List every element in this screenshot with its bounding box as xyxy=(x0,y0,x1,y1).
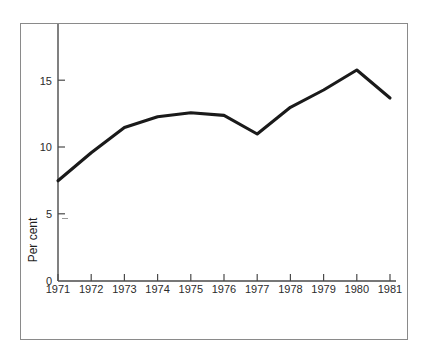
line-chart: 15 10 5 0 1971 1972 1973 1974 1975 1976 … xyxy=(0,0,427,361)
data-series-line xyxy=(58,70,390,181)
y-axis-title: Per cent xyxy=(26,217,40,262)
y-tick-label-10: 10 xyxy=(40,141,52,153)
x-tick-label-1971: 1971 xyxy=(46,283,70,295)
x-tick-label-1976: 1976 xyxy=(212,283,236,295)
x-tick-label-1980: 1980 xyxy=(345,283,369,295)
chart-figure: 15 10 5 0 1971 1972 1973 1974 1975 1976 … xyxy=(0,0,427,361)
x-tick-label-1972: 1972 xyxy=(79,283,103,295)
x-tick-label-1973: 1973 xyxy=(112,283,136,295)
y-tick-label-5: 5 xyxy=(46,208,52,220)
x-tick-label-1981: 1981 xyxy=(378,283,402,295)
x-tick-label-1974: 1974 xyxy=(145,283,169,295)
x-tick-label-1979: 1979 xyxy=(311,283,335,295)
x-tick-label-1975: 1975 xyxy=(179,283,203,295)
x-tick-label-1977: 1977 xyxy=(245,283,269,295)
y-axis-tick-labels: 15 10 5 0 xyxy=(40,75,52,288)
y-axis-ticks xyxy=(58,80,68,218)
y-tick-label-15: 15 xyxy=(40,75,52,87)
x-tick-label-1978: 1978 xyxy=(278,283,302,295)
x-axis-ticks xyxy=(58,274,390,281)
axes xyxy=(58,24,396,281)
x-axis-tick-labels: 1971 1972 1973 1974 1975 1976 1977 1978 … xyxy=(46,283,402,295)
